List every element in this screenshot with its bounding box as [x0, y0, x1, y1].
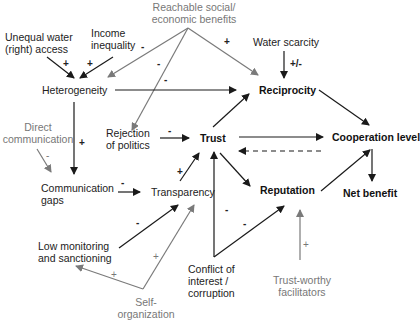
edge-reachable-to-reciprocity [188, 28, 258, 75]
sign-transparency-to-trust: + [177, 167, 183, 177]
sign-income-to-heterogeneity: + [87, 59, 93, 69]
edge-trust-to-reciprocity [213, 94, 249, 127]
node-communication-gaps: Communication gaps [41, 182, 114, 206]
node-label-line: Conflict of [188, 263, 235, 275]
edge-unequal-to-heterogeneity [47, 57, 74, 78]
node-label-line: communication [2, 133, 74, 145]
node-reputation: Reputation [260, 184, 315, 196]
sign-self-org-to-transparency: + [153, 252, 159, 262]
sign-heterogeneity-to-reciprocity: - [164, 75, 167, 85]
node-label-line: Rejection [106, 127, 150, 139]
sign-unequal-to-heterogeneity: + [63, 59, 69, 69]
node-label-line: Self- [113, 296, 179, 308]
sign-reachable-to-heterogeneity: - [141, 42, 144, 52]
node-income-inequality: Income inequality [91, 27, 135, 51]
node-label-line: Reachable social/ [148, 1, 240, 13]
node-label-line: of politics [106, 139, 150, 151]
node-heterogeneity: Heterogeneity [42, 84, 107, 96]
node-rejection-of-politics: Rejection of politics [106, 127, 150, 151]
edge-low-monitoring-to-transparency [119, 205, 178, 248]
node-label-line: Low monitoring [38, 240, 112, 252]
node-label-line: corruption [188, 287, 235, 299]
node-label-line: Unequal water [5, 31, 73, 43]
node-label-line: gaps [41, 194, 114, 206]
node-trustworthy-facilitators: Trust-worthy facilitators [270, 274, 334, 298]
node-label-line: inequality [91, 39, 135, 51]
sign-facilitators-to-reputation: + [303, 240, 309, 250]
node-label-line: facilitators [270, 286, 334, 298]
edge-income-to-heterogeneity [80, 57, 113, 78]
edge-reputation-to-cooperation [321, 150, 370, 191]
sign-conflict-to-reputation: - [243, 219, 246, 229]
node-label-line: Trust-worthy [270, 274, 334, 286]
node-label-line: and sanctioning [38, 252, 112, 264]
sign-direct-to-comm-gaps: - [46, 151, 49, 161]
node-label-line: Income [91, 27, 135, 39]
node-label-line: interest / [188, 275, 235, 287]
node-label-line: Communication [41, 182, 114, 194]
edge-trust-to-reputation [220, 153, 250, 186]
node-label-line: organization [113, 308, 179, 320]
edge-reciprocity-to-cooperation [319, 90, 369, 125]
sign-water-to-reciprocity: +/- [290, 59, 302, 69]
node-reciprocity: Reciprocity [259, 84, 316, 96]
node-trust: Trust [200, 132, 226, 144]
sign-conflict-to-trust: - [225, 205, 228, 215]
node-cooperation-level: Cooperation level [332, 131, 420, 143]
edge-self-org-to-transparency [143, 205, 194, 289]
sign-heterogeneity-to-comm-gaps: + [79, 138, 85, 148]
sign-reachable-to-reciprocity: + [224, 37, 230, 47]
node-reachable-benefits: Reachable social/ economic benefits [148, 1, 240, 25]
node-conflict-of-interest: Conflict of interest / corruption [188, 263, 235, 299]
node-unequal-water-access: Unequal water (right) access [5, 31, 73, 55]
node-label-line: economic benefits [148, 13, 240, 25]
node-label-line: (right) access [5, 43, 73, 55]
sign-comm-gaps-to-transparency: - [121, 178, 124, 188]
node-net-benefit: Net benefit [343, 187, 397, 199]
edge-self-org-to-low-monitoring [76, 266, 143, 289]
sign-reachable-to-rejection: - [157, 59, 160, 69]
sign-self-org-to-low-monitoring: + [111, 270, 117, 280]
node-transparency: Transparency [151, 186, 215, 198]
node-self-organization: Self- organization [113, 296, 179, 320]
node-low-monitoring-sanctioning: Low monitoring and sanctioning [38, 240, 112, 264]
node-water-scarcity: Water scarcity [253, 36, 319, 48]
sign-rejection-to-trust: - [168, 126, 171, 136]
node-direct-communication: Direct communication [2, 121, 74, 145]
node-label-line: Direct [2, 121, 74, 133]
sign-low-monitoring-to-transparency: - [136, 218, 139, 228]
